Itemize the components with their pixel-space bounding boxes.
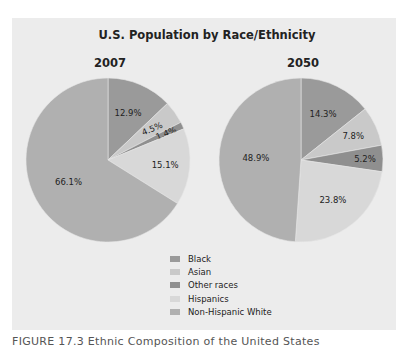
legend-swatch: [170, 282, 180, 288]
legend-item-other-races: Other races: [170, 279, 272, 292]
legend-swatch: [170, 256, 180, 262]
figure-caption: FIGURE 17.3 Ethnic Composition of the Un…: [12, 335, 320, 348]
legend-label: Hispanics: [188, 294, 229, 304]
legend-label: Black: [188, 254, 211, 264]
legend-label: Asian: [188, 267, 211, 277]
slice-value-label: 66.1%: [55, 177, 82, 187]
legend-item-non-hispanic-white: Non-Hispanic White: [170, 306, 272, 319]
legend-item-asian: Asian: [170, 265, 272, 278]
slice-value-label: 23.8%: [319, 195, 346, 205]
legend-swatch: [170, 269, 180, 275]
legend: Black Asian Other races Hispanics Non-Hi…: [170, 252, 272, 319]
legend-label: Other races: [188, 280, 238, 290]
pie-chart-2007: 12.9%4.5%1.4%15.1%66.1%: [26, 78, 190, 242]
slice-value-label: 15.1%: [152, 160, 179, 170]
legend-item-black: Black: [170, 252, 272, 265]
slice-value-label: 7.8%: [342, 131, 364, 141]
slice-value-label: 5.2%: [354, 154, 376, 164]
legend-swatch: [170, 296, 180, 302]
legend-label: Non-Hispanic White: [188, 307, 272, 317]
slice-value-label: 12.9%: [115, 108, 142, 118]
legend-item-hispanics: Hispanics: [170, 292, 272, 305]
slice-value-label: 48.9%: [242, 153, 269, 163]
slice-value-label: 14.3%: [310, 109, 337, 119]
pie-chart-2050: 14.3%7.8%5.2%23.8%48.9%: [219, 78, 383, 242]
legend-swatch: [170, 309, 180, 315]
